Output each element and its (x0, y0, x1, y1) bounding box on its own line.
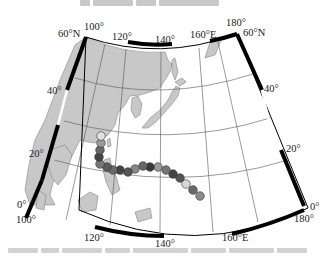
label-top-right-lat-60: 60°N (243, 27, 266, 38)
track-point (97, 132, 106, 141)
label-left-lat-40: 40° (47, 85, 62, 96)
track-point (196, 192, 205, 201)
track-point (189, 186, 198, 195)
label-right-lat-40: 40° (264, 83, 279, 94)
label-top-lon-120: 120° (112, 31, 132, 42)
label-top-left-lat-60: 60°N (58, 28, 81, 39)
figure-caption-bottom (8, 248, 323, 256)
label-top-lon-160: 160°E (190, 29, 216, 40)
taiwan (107, 138, 111, 147)
track-point (154, 163, 163, 172)
label-top-lon-100: 100° (84, 21, 104, 32)
track-point (139, 162, 148, 171)
label-bottom-lon-180: 180° (294, 213, 314, 224)
map-canvas: 100° 120° 140° 160°E 180° 60°N 60°N 40° … (0, 0, 329, 260)
label-left-lat-0: 0° (17, 199, 26, 210)
label-right-lat-20: 20° (286, 143, 301, 154)
track-point (162, 166, 171, 175)
label-bottom-lon-120: 120° (84, 232, 104, 243)
label-bottom-lon-160: 160°E (222, 232, 248, 243)
label-bottom-lon-100: 100° (16, 214, 36, 225)
label-right-lat-0: 0° (310, 201, 319, 212)
track-point (124, 168, 133, 177)
label-top-lon-140: 140° (155, 34, 175, 45)
label-left-lat-20: 20° (29, 148, 44, 159)
